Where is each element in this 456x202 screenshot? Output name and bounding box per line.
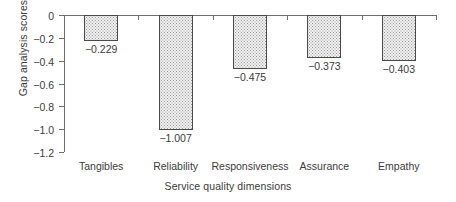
y-tick-label: −0.4 bbox=[33, 56, 54, 68]
gap-analysis-bar-chart: Gap analysis scores 0−0.2−0.4−0.6−0.8−1.… bbox=[0, 0, 456, 202]
y-axis-line bbox=[64, 15, 65, 152]
bar-value-label: −0.403 bbox=[383, 63, 415, 75]
y-tick-label: −0.8 bbox=[33, 101, 54, 113]
bar-value-label: −0.229 bbox=[85, 43, 117, 55]
y-tick: −0.8 bbox=[59, 106, 64, 107]
bar-value-label: −1.007 bbox=[159, 132, 191, 144]
category-label: Assurance bbox=[300, 160, 350, 172]
y-tick-label: −0.6 bbox=[33, 79, 54, 91]
y-tick: −0.2 bbox=[59, 38, 64, 39]
category-label: Responsiveness bbox=[211, 160, 288, 172]
y-tick: −0.6 bbox=[59, 84, 64, 85]
plot-area: 0−0.2−0.4−0.6−0.8−1.0−1.2 −0.229−1.007−0… bbox=[64, 15, 436, 152]
category-label: Empathy bbox=[378, 160, 419, 172]
x-tick bbox=[213, 15, 214, 20]
y-tick-label: −0.2 bbox=[33, 33, 54, 45]
bar bbox=[159, 15, 193, 130]
x-axis-title: Service quality dimensions bbox=[0, 180, 456, 192]
x-tick bbox=[287, 15, 288, 20]
bar bbox=[233, 15, 267, 69]
x-tick bbox=[436, 15, 437, 20]
category-label: Tangibles bbox=[79, 160, 123, 172]
y-axis-title: Gap analysis scores bbox=[17, 0, 29, 118]
bar-value-label: −0.475 bbox=[234, 71, 266, 83]
y-tick: −0.4 bbox=[59, 61, 64, 62]
y-tick-label: 0 bbox=[48, 10, 54, 22]
x-tick bbox=[138, 15, 139, 20]
y-tick-label: −1.0 bbox=[33, 124, 54, 136]
category-label: Reliability bbox=[153, 160, 198, 172]
bar bbox=[307, 15, 341, 58]
bar bbox=[382, 15, 416, 61]
y-tick: −1.0 bbox=[59, 129, 64, 130]
bar-value-label: −0.373 bbox=[308, 60, 340, 72]
y-tick-label: −1.2 bbox=[33, 147, 54, 159]
y-tick: 0 bbox=[59, 15, 64, 16]
x-tick bbox=[362, 15, 363, 20]
y-tick: −1.2 bbox=[59, 152, 64, 153]
bar bbox=[84, 15, 118, 41]
